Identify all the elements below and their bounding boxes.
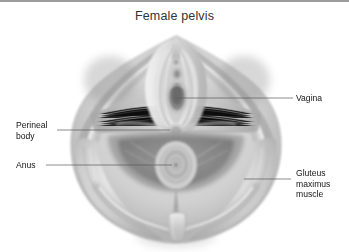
figure-root: Female pelvis <box>0 0 349 252</box>
label-anus: Anus <box>16 160 36 171</box>
label-perineal-body-line-2: body <box>16 131 48 142</box>
label-gluteus-maximus-line-1: Gluteus <box>296 168 330 179</box>
label-vagina: Vagina <box>296 93 322 104</box>
label-vagina-line-1: Vagina <box>296 93 322 104</box>
urethral-opening <box>172 68 182 81</box>
female-pelvis-illustration <box>0 0 349 252</box>
label-anus-line-1: Anus <box>16 160 36 171</box>
label-gluteus-maximus-line-2: maximus <box>296 179 330 190</box>
vaginal-opening <box>166 80 188 114</box>
label-gluteus-maximus-line-3: muscle <box>296 189 330 200</box>
label-gluteus-maximus: Gluteus maximus muscle <box>296 168 330 200</box>
label-perineal-body: Perineal body <box>16 120 48 141</box>
label-perineal-body-line-1: Perineal <box>16 120 48 131</box>
